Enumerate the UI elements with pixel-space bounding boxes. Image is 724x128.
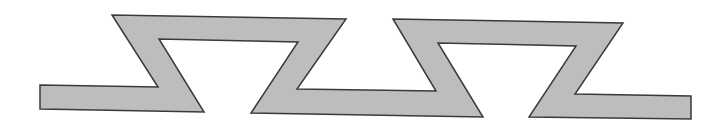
- diagram-canvas: [0, 0, 724, 128]
- zigzag-shape-svg: [0, 0, 724, 128]
- zigzag-band-polygon: [40, 15, 691, 119]
